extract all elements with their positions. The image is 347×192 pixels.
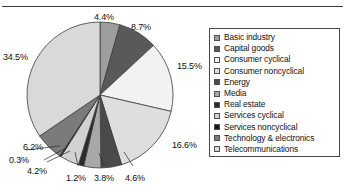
legend-item[interactable]: Media [214,88,339,99]
legend-swatch-icon [214,57,220,63]
legend-item-label: Services cyclical [224,111,284,120]
legend-item-label: Services noncyclical [224,123,297,132]
legend-item-label: Media [224,89,246,98]
legend-item[interactable]: Energy [214,77,339,88]
legend-swatch-icon [214,135,220,141]
pie-data-label: 4.4% [94,12,114,22]
legend-item[interactable]: Consumer noncyclical [214,66,339,77]
pie-data-label: 6.2% [23,142,43,152]
pie-data-label: 0.3% [9,155,29,165]
pie-data-label: 34.5% [3,52,28,62]
chart-canvas: 4.4%8.7%15.5%16.6%4.6%3.8%1.2%4.2%0.3%6.… [0,0,347,192]
legend-swatch-icon [214,102,220,108]
legend-item-label: Capital goods [224,44,274,53]
legend-swatch-icon [214,79,220,85]
legend-swatch-icon [214,124,220,130]
chart-legend: Basic industryCapital goodsConsumer cycl… [209,28,340,157]
legend-swatch-icon [214,35,220,41]
legend-item[interactable]: Services cyclical [214,110,339,121]
pie-data-label: 4.2% [27,166,47,176]
legend-item[interactable]: Real estate [214,99,339,110]
legend-item[interactable]: Capital goods [214,43,339,54]
legend-swatch-icon [214,68,220,74]
legend-item-label: Consumer noncyclical [224,67,304,76]
legend-item-label: Basic industry [224,33,275,42]
pie-data-label: 3.8% [94,173,114,183]
legend-item[interactable]: Telecommunications [214,144,339,155]
legend-item[interactable]: Services noncyclical [214,122,339,133]
legend-item-label: Telecommunications [224,145,298,154]
pie-data-label: 15.5% [177,61,202,71]
legend-item-label: Technology & electronics [224,134,314,143]
pie-data-label: 8.7% [131,22,151,32]
legend-item-label: Consumer cyclical [224,55,290,64]
pie-data-label: 4.6% [125,173,145,183]
legend-swatch-icon [214,46,220,52]
legend-item[interactable]: Consumer cyclical [214,54,339,65]
legend-item[interactable]: Basic industry [214,32,339,43]
pie-slice-group [27,22,173,168]
pie-data-label: 1.2% [66,173,86,183]
pie-data-label: 16.6% [172,140,197,150]
legend-swatch-icon [214,91,220,97]
legend-item-label: Energy [224,78,250,87]
legend-item[interactable]: Technology & electronics [214,133,339,144]
legend-item-label: Real estate [224,100,265,109]
legend-swatch-icon [214,146,220,152]
legend-swatch-icon [214,113,220,119]
